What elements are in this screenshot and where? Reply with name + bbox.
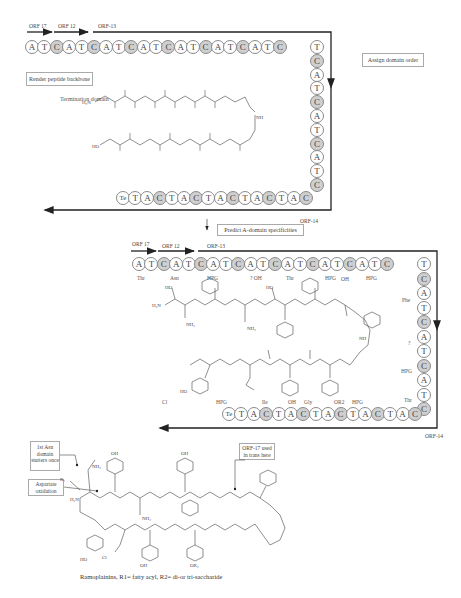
svg-text:NH₂: NH₂	[142, 516, 151, 521]
svg-text:HO: HO	[165, 285, 173, 290]
svg-text:H₂N: H₂N	[82, 100, 91, 105]
svg-text:NH: NH	[359, 336, 367, 341]
diagram-lines: H₂NHO NH H₂NHO NH₂NH₂ HONH HO	[0, 0, 461, 598]
svg-text:HO: HO	[180, 389, 188, 394]
svg-text:Cl: Cl	[102, 555, 107, 560]
svg-text:OH: OH	[181, 451, 189, 456]
svg-text:OR₂: OR₂	[190, 563, 199, 568]
svg-text:NH₂: NH₂	[92, 464, 101, 469]
svg-text:R₁: R₁	[60, 477, 65, 482]
svg-text:OH: OH	[140, 563, 148, 568]
svg-text:H₂N: H₂N	[152, 303, 161, 308]
svg-text:HO: HO	[266, 285, 274, 290]
svg-text:OH: OH	[111, 451, 119, 456]
svg-text:NH: NH	[256, 115, 264, 120]
svg-text:H₂N: H₂N	[70, 497, 79, 502]
svg-text:NH₂: NH₂	[186, 322, 195, 327]
svg-text:HO: HO	[80, 557, 88, 562]
svg-text:HO: HO	[92, 144, 100, 149]
svg-text:NH₂: NH₂	[247, 326, 256, 331]
